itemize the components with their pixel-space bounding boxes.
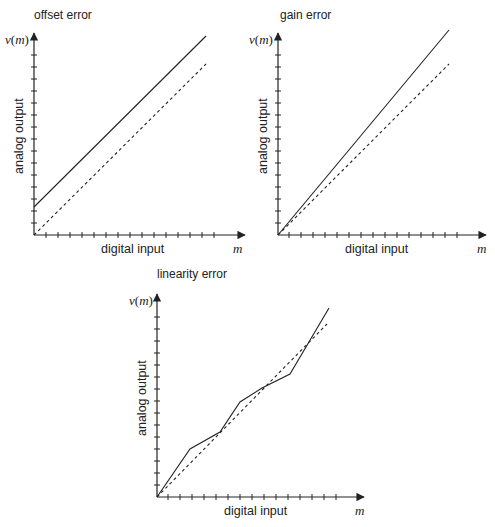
x-axis-label: digital input bbox=[224, 504, 288, 518]
gain-error-panel: gain error v(m) analog output digital in… bbox=[249, 8, 486, 256]
actual-transfer-line bbox=[278, 30, 449, 235]
panel-title: offset error bbox=[34, 8, 92, 22]
actual-transfer-curve bbox=[157, 308, 329, 497]
ideal-transfer-line bbox=[157, 324, 327, 497]
x-axis-symbol: m bbox=[355, 503, 364, 518]
y-axis-symbol: v(m) bbox=[5, 32, 29, 47]
y-axis-label: analog output bbox=[135, 360, 149, 436]
y-axis-symbol: v(m) bbox=[129, 293, 153, 308]
y-axis-label: analog output bbox=[12, 98, 26, 174]
linearity-error-panel: linearity error v(m) analog output digit… bbox=[129, 267, 364, 518]
x-axis-label: digital input bbox=[101, 242, 165, 256]
dac-error-figure: offset error v(m) analog output digital … bbox=[0, 0, 495, 527]
ideal-transfer-line bbox=[278, 64, 449, 235]
panel-title: gain error bbox=[280, 8, 331, 22]
actual-transfer-line bbox=[34, 36, 206, 207]
y-axis-symbol: v(m) bbox=[249, 32, 273, 47]
x-axis-symbol: m bbox=[233, 241, 242, 256]
x-axis-label: digital input bbox=[345, 242, 409, 256]
offset-error-panel: offset error v(m) analog output digital … bbox=[5, 8, 245, 256]
y-axis-label: analog output bbox=[256, 98, 270, 174]
x-axis-symbol: m bbox=[477, 241, 486, 256]
ideal-transfer-line bbox=[34, 64, 206, 235]
panel-title: linearity error bbox=[157, 267, 227, 281]
